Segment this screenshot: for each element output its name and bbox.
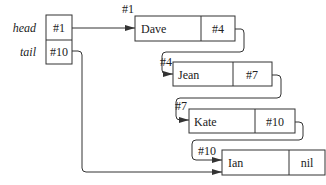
node-next: #7: [246, 68, 258, 82]
node-address: #4: [160, 55, 172, 69]
tail-value: #10: [50, 45, 68, 59]
node-name: Dave: [141, 22, 166, 36]
node-name: Ian: [228, 156, 243, 170]
node-dave: #1 Dave #4: [122, 2, 235, 41]
linked-list-diagram: head tail #1 #10 #1 Dave #4 #4 Jean #7 #…: [0, 0, 326, 185]
tail-label: tail: [20, 45, 37, 59]
head-tail-box: head tail #1 #10: [13, 15, 72, 64]
node-name: Jean: [178, 68, 199, 82]
node-jean: #4 Jean #7: [160, 55, 272, 86]
node-address: #1: [122, 2, 134, 16]
node-next: #4: [212, 22, 224, 36]
node-address: #7: [175, 99, 187, 113]
node-address: #10: [198, 144, 216, 158]
node-next: nil: [301, 156, 314, 170]
head-label: head: [13, 21, 37, 35]
head-value: #1: [53, 21, 65, 35]
node-kate: #7 Kate #10: [175, 99, 295, 133]
link-arrow: [162, 29, 244, 74]
node-name: Kate: [194, 115, 217, 129]
node-next: #10: [266, 115, 284, 129]
